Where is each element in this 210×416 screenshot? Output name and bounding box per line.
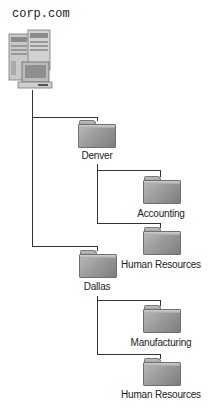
folder-icon-denver[interactable] — [78, 120, 115, 147]
server-workstation-icon — [8, 28, 54, 90]
folder-icon-dallas[interactable] — [79, 250, 116, 277]
branch-line-denver-hr — [97, 223, 160, 224]
folder-label-dallas-human-resources: Human Resources — [121, 389, 201, 400]
folder-label-manufacturing: Manufacturing — [131, 337, 192, 348]
folder-label-denver: Denver — [81, 150, 112, 161]
trunk-line — [32, 90, 33, 247]
denver-trunk — [97, 164, 98, 224]
branch-line-dallas — [32, 246, 98, 247]
folder-label-accounting: Accounting — [137, 208, 184, 219]
folder-label-dallas: Dallas — [84, 281, 111, 292]
folder-icon-accounting[interactable] — [143, 176, 180, 203]
folder-icon-manufacturing[interactable] — [143, 305, 180, 332]
domain-root-label: corp.com — [12, 7, 70, 21]
dallas-trunk — [97, 296, 98, 355]
folder-label-denver-human-resources: Human Resources — [121, 259, 201, 270]
branch-line-dallas-hr — [97, 354, 160, 355]
folder-icon-denver-human-resources[interactable] — [143, 227, 180, 254]
branch-line-denver — [32, 117, 98, 118]
branch-line-accounting — [97, 170, 160, 171]
branch-line-manufacturing — [97, 300, 160, 301]
folder-icon-dallas-human-resources[interactable] — [143, 358, 180, 385]
